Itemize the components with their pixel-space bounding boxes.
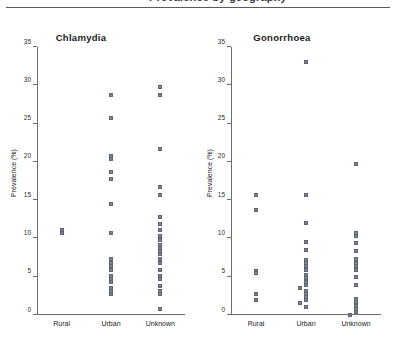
data-point — [60, 228, 64, 232]
y-tick-label-15: 15 — [24, 190, 31, 197]
data-point — [254, 298, 258, 302]
data-point — [354, 310, 358, 314]
y-tick-0 — [33, 314, 37, 315]
data-point — [158, 222, 162, 226]
x-tick-label-unknown: Unknown — [146, 320, 175, 327]
data-point — [158, 307, 162, 311]
y-axis-line — [37, 47, 38, 315]
data-point — [354, 275, 358, 279]
chart-title-gonorrhoea: Gonorrhoea — [198, 32, 396, 43]
data-point — [304, 283, 308, 287]
y-tick-35 — [227, 46, 231, 47]
data-point — [158, 268, 162, 272]
data-point — [304, 305, 308, 309]
y-axis-label-gonorrhoea: Prevalence (%) — [206, 149, 213, 197]
data-point — [109, 292, 113, 296]
y-tick-20 — [33, 161, 37, 162]
y-tick-label-35: 35 — [24, 37, 31, 44]
data-point — [158, 193, 162, 197]
y-tick-label-5: 5 — [27, 267, 31, 274]
x-axis-line — [231, 314, 381, 315]
data-point — [304, 240, 308, 244]
y-tick-10 — [227, 237, 231, 238]
data-point — [354, 162, 358, 166]
y-tick-label-35: 35 — [218, 37, 225, 44]
data-point — [109, 93, 113, 97]
data-point — [348, 313, 352, 317]
x-tick-label-rural: Rural — [53, 320, 70, 327]
y-tick-label-20: 20 — [24, 152, 31, 159]
plot-area-gonorrhoea: 05101520253035RuralUrbanUnknown — [231, 47, 381, 315]
data-point — [158, 261, 162, 265]
data-point — [109, 170, 113, 174]
data-point — [158, 284, 162, 288]
plot-area-chlamydia: 05101520253035RuralUrbanUnknown — [37, 47, 185, 315]
data-point — [109, 116, 113, 120]
y-tick-label-25: 25 — [24, 114, 31, 121]
y-tick-35 — [33, 46, 37, 47]
cutoff-header-text: Prevalence by geography — [118, 0, 318, 3]
data-point — [158, 238, 162, 242]
figure-top-band: Prevalence by geography — [0, 0, 396, 22]
y-tick-5 — [227, 276, 231, 277]
y-tick-30 — [227, 84, 231, 85]
data-point — [354, 249, 358, 253]
y-tick-15 — [227, 199, 231, 200]
y-tick-label-30: 30 — [218, 75, 225, 82]
data-point — [158, 234, 162, 238]
y-tick-label-20: 20 — [218, 152, 225, 159]
data-point — [354, 283, 358, 287]
data-point — [304, 248, 308, 252]
data-point — [254, 208, 258, 212]
y-tick-label-15: 15 — [218, 190, 225, 197]
data-point — [158, 257, 162, 261]
x-tick-label-rural: Rural — [248, 320, 265, 327]
x-tick-label-urban: Urban — [101, 320, 120, 327]
y-tick-25 — [33, 123, 37, 124]
data-point — [304, 268, 308, 272]
data-point — [304, 221, 308, 225]
data-point — [304, 60, 308, 64]
horizontal-rule — [6, 7, 390, 8]
y-tick-20 — [227, 161, 231, 162]
y-tick-label-5: 5 — [221, 267, 225, 274]
data-point — [254, 271, 258, 275]
data-point — [109, 280, 113, 284]
y-tick-label-10: 10 — [24, 228, 31, 235]
data-point — [109, 231, 113, 235]
y-tick-label-10: 10 — [218, 228, 225, 235]
data-point — [254, 292, 258, 296]
y-axis-label-chlamydia: Prevalence (%) — [10, 149, 17, 197]
y-tick-5 — [33, 276, 37, 277]
y-tick-25 — [227, 123, 231, 124]
x-axis-line — [37, 314, 185, 315]
data-point — [158, 292, 162, 296]
data-point — [158, 93, 162, 97]
y-tick-label-0: 0 — [221, 305, 225, 312]
data-point — [298, 286, 302, 290]
x-tick-label-urban: Urban — [296, 320, 315, 327]
data-point — [354, 241, 358, 245]
data-point — [109, 157, 113, 161]
x-tick-label-unknown: Unknown — [341, 320, 370, 327]
data-point — [109, 202, 113, 206]
data-point — [158, 215, 162, 219]
y-tick-label-25: 25 — [218, 114, 225, 121]
data-point — [254, 193, 258, 197]
y-tick-10 — [33, 237, 37, 238]
data-point — [158, 277, 162, 281]
data-point — [158, 228, 162, 232]
chart-panel-gonorrhoea: Gonorrhoea Prevalence (%) 05101520253035… — [198, 22, 396, 341]
data-point — [158, 85, 162, 89]
chart-panel-chlamydia: Chlamydia Prevalence (%) 05101520253035R… — [0, 22, 198, 341]
data-point — [109, 177, 113, 181]
y-tick-label-0: 0 — [27, 305, 31, 312]
y-tick-label-30: 30 — [24, 75, 31, 82]
y-tick-0 — [227, 314, 231, 315]
data-point — [304, 298, 308, 302]
data-point — [354, 268, 358, 272]
data-point — [158, 252, 162, 256]
data-point — [158, 185, 162, 189]
y-axis-line — [231, 47, 232, 315]
y-tick-30 — [33, 84, 37, 85]
